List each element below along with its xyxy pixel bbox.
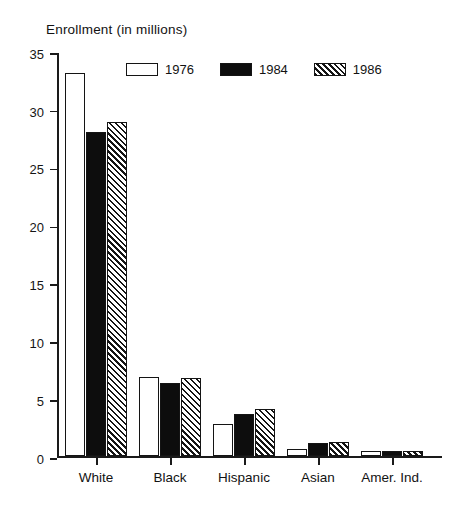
bar-hispanic-1976[interactable] (213, 424, 233, 456)
y-axis-line (57, 53, 59, 458)
enrollment-bar-chart: Enrollment (in millions) 1976 1984 1986 … (0, 0, 450, 509)
y-axis-tick-label: 5 (37, 393, 44, 408)
y-axis-tick-label: 35 (30, 46, 44, 61)
bar-amer-ind-1984[interactable] (382, 451, 402, 456)
y-axis-tick-label: 15 (30, 278, 44, 293)
bar-black-1984[interactable] (160, 383, 180, 456)
y-axis-tick: 5 (50, 400, 57, 402)
bar-black-1986[interactable] (181, 378, 201, 456)
bar-amer-ind-1986[interactable] (403, 451, 423, 456)
bar-amer-ind-1976[interactable] (361, 451, 381, 456)
y-axis-tick-label: 30 (30, 104, 44, 119)
x-axis-tick (318, 458, 320, 465)
bar-white-1986[interactable] (107, 122, 127, 456)
y-axis-tick: 10 (50, 342, 57, 344)
y-axis-tick: 0 (50, 458, 57, 460)
y-axis-tick: 15 (50, 284, 57, 286)
bar-black-1976[interactable] (139, 377, 159, 456)
bar-group: Hispanic (213, 53, 275, 456)
bar-asian-1976[interactable] (287, 449, 307, 456)
x-axis-category-label: Black (153, 470, 186, 485)
y-axis-tick: 35 (50, 53, 57, 55)
bar-asian-1984[interactable] (308, 443, 328, 456)
x-axis-category-label: White (79, 470, 114, 485)
bar-hispanic-1986[interactable] (255, 409, 275, 456)
y-axis-tick: 25 (50, 169, 57, 171)
x-axis-category-label: Hispanic (218, 470, 270, 485)
bar-group: Asian (287, 53, 349, 456)
x-axis-category-label: Amer. Ind. (361, 470, 423, 485)
x-axis-tick (170, 458, 172, 465)
x-axis-tick (96, 458, 98, 465)
y-axis-tick-label: 20 (30, 220, 44, 235)
bar-asian-1986[interactable] (329, 442, 349, 456)
bar-group: White (65, 53, 127, 456)
x-axis-category-label: Asian (301, 470, 335, 485)
chart-title: Enrollment (in millions) (46, 22, 187, 37)
x-axis-tick (244, 458, 246, 465)
bar-hispanic-1984[interactable] (234, 414, 254, 456)
y-axis-tick-label: 0 (37, 451, 44, 466)
x-axis-tick (392, 458, 394, 465)
bar-group: Black (139, 53, 201, 456)
bar-white-1976[interactable] (65, 73, 85, 456)
y-axis-tick-label: 10 (30, 336, 44, 351)
plot-area: 35302520151050 WhiteBlackHispanicAsianAm… (57, 53, 442, 458)
bar-white-1984[interactable] (86, 132, 106, 456)
y-axis-tick-label: 25 (30, 162, 44, 177)
y-axis-tick: 20 (50, 227, 57, 229)
bar-group: Amer. Ind. (361, 53, 423, 456)
x-axis-line (57, 456, 442, 458)
y-axis-tick: 30 (50, 111, 57, 113)
